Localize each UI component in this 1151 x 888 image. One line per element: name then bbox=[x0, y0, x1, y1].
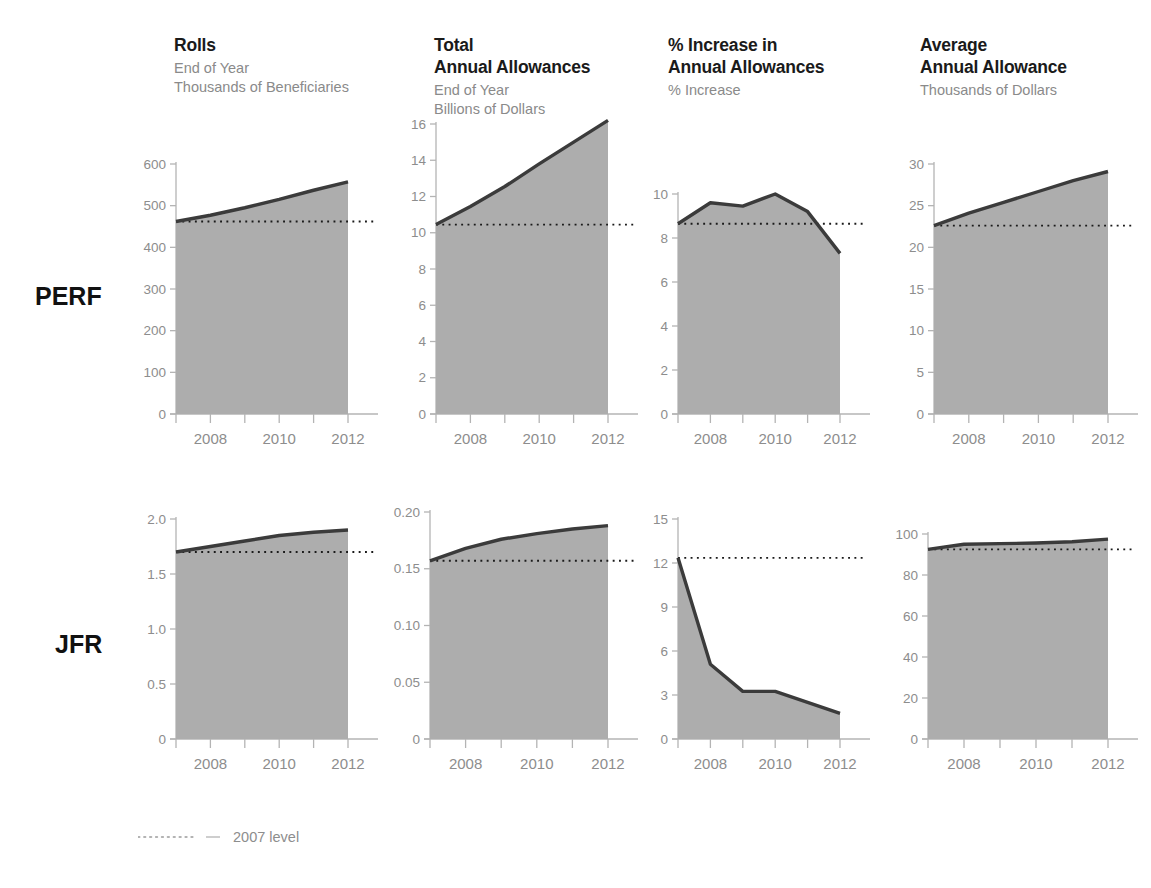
y-tick-label: 60 bbox=[903, 609, 918, 624]
y-tick-label: 6 bbox=[660, 275, 668, 290]
x-tick-label: 2008 bbox=[449, 755, 482, 772]
y-tick-label: 0.05 bbox=[394, 675, 420, 690]
x-tick-label: 2010 bbox=[523, 430, 556, 447]
column-title: Rolls bbox=[174, 35, 404, 57]
area-fill bbox=[430, 526, 608, 739]
chart-jfr-total-annual-allowances: 00.050.100.150.20200820102012 bbox=[384, 498, 650, 795]
x-tick-label: 2010 bbox=[1019, 755, 1052, 772]
legend: 2007 level bbox=[138, 828, 299, 846]
x-tick-label: 2010 bbox=[759, 755, 792, 772]
y-tick-label: 6 bbox=[660, 644, 668, 659]
y-tick-label: 0 bbox=[158, 732, 166, 747]
area-fill bbox=[176, 530, 348, 739]
y-tick-label: 4 bbox=[660, 319, 668, 334]
x-tick-label: 2012 bbox=[823, 755, 856, 772]
x-tick-label: 2010 bbox=[520, 755, 553, 772]
x-tick-label: 2012 bbox=[331, 430, 364, 447]
y-tick-label: 100 bbox=[143, 365, 166, 380]
chart-jfr-percent-increase: 03691215200820102012 bbox=[632, 505, 882, 795]
y-tick-label: 15 bbox=[909, 282, 924, 297]
y-tick-label: 8 bbox=[660, 231, 668, 246]
y-tick-label: 30 bbox=[909, 157, 924, 172]
y-tick-label: 20 bbox=[909, 240, 924, 255]
y-tick-label: 0 bbox=[158, 407, 166, 422]
area-fill bbox=[678, 194, 840, 414]
x-tick-label: 2008 bbox=[194, 755, 227, 772]
column-title: Total Annual Allowances bbox=[434, 35, 664, 79]
x-tick-label: 2012 bbox=[591, 755, 624, 772]
chart-perf-total-annual-allowances: 0246810121416200820102012 bbox=[390, 110, 650, 470]
chart-perf-average-annual-allowance: 051015202530200820102012 bbox=[888, 150, 1150, 470]
x-tick-label: 2012 bbox=[591, 430, 624, 447]
y-tick-label: 0 bbox=[412, 732, 420, 747]
y-tick-label: 6 bbox=[418, 298, 426, 313]
y-tick-label: 0.15 bbox=[394, 561, 420, 576]
y-tick-label: 600 bbox=[143, 157, 166, 172]
chart-jfr-rolls: 00.51.01.52.0200820102012 bbox=[130, 505, 390, 795]
y-tick-label: 0.10 bbox=[394, 618, 420, 633]
column-header-total-annual-allowances: Total Annual Allowances End of Year Bill… bbox=[434, 35, 664, 118]
y-tick-label: 500 bbox=[143, 198, 166, 213]
y-tick-label: 20 bbox=[903, 691, 918, 706]
column-header-percent-increase: % Increase in Annual Allowances % Increa… bbox=[668, 35, 898, 100]
y-tick-label: 0.20 bbox=[394, 505, 420, 520]
column-subtitle: % Increase bbox=[668, 81, 898, 100]
y-tick-label: 2.0 bbox=[147, 512, 166, 527]
y-tick-label: 5 bbox=[916, 365, 924, 380]
x-tick-label: 2008 bbox=[947, 755, 980, 772]
y-tick-label: 200 bbox=[143, 323, 166, 338]
y-tick-label: 0 bbox=[910, 732, 918, 747]
x-tick-label: 2010 bbox=[263, 755, 296, 772]
y-tick-label: 0.5 bbox=[147, 677, 166, 692]
x-tick-label: 2012 bbox=[823, 430, 856, 447]
y-tick-label: 9 bbox=[660, 600, 668, 615]
y-tick-label: 40 bbox=[903, 650, 918, 665]
chart-jfr-average-annual-allowance: 020406080100200820102012 bbox=[882, 520, 1150, 795]
chart-perf-percent-increase: 0246810200820102012 bbox=[632, 180, 882, 470]
x-tick-label: 2008 bbox=[952, 430, 985, 447]
area-fill bbox=[678, 558, 840, 739]
y-tick-label: 0 bbox=[660, 732, 668, 747]
column-title: Average Annual Allowance bbox=[920, 35, 1150, 79]
x-tick-label: 2008 bbox=[454, 430, 487, 447]
y-tick-label: 1.0 bbox=[147, 622, 166, 637]
column-subtitle: End of Year Thousands of Beneficiaries bbox=[174, 59, 404, 97]
legend-dotted-line-icon bbox=[138, 828, 226, 846]
row-label-jfr: JFR bbox=[55, 630, 102, 659]
chart-perf-rolls: 0100200300400500600200820102012 bbox=[130, 150, 390, 470]
y-tick-label: 4 bbox=[418, 334, 426, 349]
y-tick-label: 2 bbox=[660, 363, 668, 378]
x-tick-label: 2010 bbox=[759, 430, 792, 447]
y-tick-label: 0 bbox=[660, 407, 668, 422]
y-tick-label: 14 bbox=[411, 153, 427, 168]
row-label-perf: PERF bbox=[35, 282, 102, 311]
column-header-average-annual-allowance: Average Annual Allowance Thousands of Do… bbox=[920, 35, 1150, 100]
column-subtitle: Thousands of Dollars bbox=[920, 81, 1150, 100]
area-fill bbox=[436, 120, 608, 414]
y-tick-label: 3 bbox=[660, 688, 668, 703]
y-tick-label: 2 bbox=[418, 370, 426, 385]
y-tick-label: 100 bbox=[895, 527, 918, 542]
y-tick-label: 400 bbox=[143, 240, 166, 255]
y-tick-label: 12 bbox=[653, 556, 668, 571]
area-fill bbox=[934, 172, 1108, 415]
y-tick-label: 12 bbox=[411, 189, 426, 204]
x-tick-label: 2008 bbox=[194, 430, 227, 447]
y-tick-label: 80 bbox=[903, 568, 918, 583]
legend-label: 2007 level bbox=[233, 829, 299, 845]
y-tick-label: 0 bbox=[916, 407, 924, 422]
y-tick-label: 16 bbox=[411, 117, 426, 132]
x-tick-label: 2010 bbox=[1022, 430, 1055, 447]
x-tick-label: 2012 bbox=[331, 755, 364, 772]
x-tick-label: 2012 bbox=[1091, 755, 1124, 772]
x-tick-label: 2008 bbox=[694, 755, 727, 772]
y-tick-label: 1.5 bbox=[147, 567, 166, 582]
y-tick-label: 25 bbox=[909, 198, 924, 213]
y-tick-label: 8 bbox=[418, 262, 426, 277]
x-tick-label: 2012 bbox=[1091, 430, 1124, 447]
x-tick-label: 2008 bbox=[694, 430, 727, 447]
y-tick-label: 0 bbox=[418, 407, 426, 422]
y-tick-label: 15 bbox=[653, 512, 668, 527]
column-title: % Increase in Annual Allowances bbox=[668, 35, 898, 79]
y-tick-label: 10 bbox=[653, 187, 668, 202]
